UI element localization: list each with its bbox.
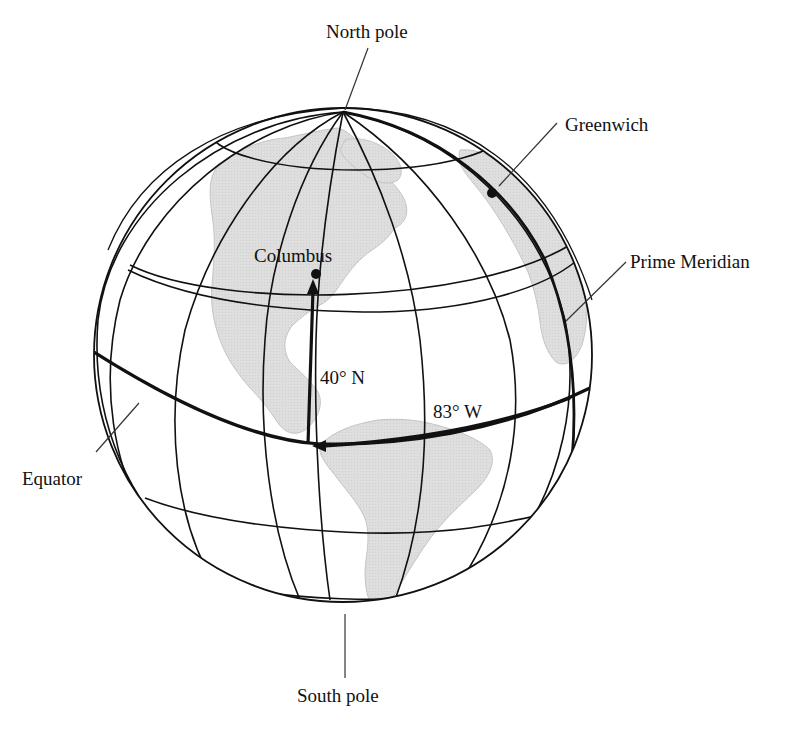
globe-diagram: North pole Greenwich Prime Meridian Colu…: [0, 0, 802, 731]
globe-svg: [0, 0, 802, 731]
south-america-landmass: [320, 419, 493, 602]
north-pole-label: North pole: [326, 22, 408, 41]
latitude-label: 40° N: [320, 368, 365, 387]
north-pole-leader: [345, 48, 368, 110]
greenwich-leader: [499, 123, 557, 186]
prime-meridian-label: Prime Meridian: [630, 252, 750, 271]
columbus-marker: [311, 269, 321, 279]
greenwich-label: Greenwich: [565, 115, 648, 134]
land-masses: [210, 128, 587, 602]
south-pole-label: South pole: [297, 686, 379, 705]
greenwich-marker: [487, 188, 497, 198]
columbus-label: Columbus: [254, 246, 332, 265]
parallel-30n: [100, 290, 590, 339]
longitude-label: 83° W: [433, 402, 482, 421]
equator-label: Equator: [22, 469, 82, 488]
